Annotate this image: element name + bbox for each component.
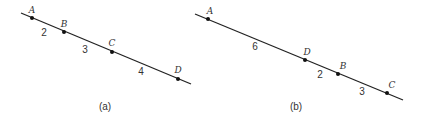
line-segment — [21, 13, 191, 84]
figure-caption: (b) — [290, 101, 302, 112]
segment-length-label: 3 — [82, 44, 88, 55]
point-label: D — [302, 47, 310, 57]
segment-length-label: 4 — [138, 66, 144, 77]
diagram-canvas: ABCD234(a) ADBC623(b) — [0, 0, 425, 125]
point-d — [176, 77, 180, 81]
segment-length-label: 2 — [317, 69, 323, 80]
point-label: A — [28, 5, 36, 15]
segment-length-label: 2 — [41, 27, 47, 38]
point-b — [62, 30, 66, 34]
point-c — [385, 91, 389, 95]
point-label: B — [60, 19, 68, 29]
point-a — [30, 16, 34, 20]
point-b — [336, 72, 340, 76]
line-segment — [195, 14, 403, 100]
point-d — [303, 58, 307, 62]
figure-caption: (a) — [99, 101, 111, 112]
point-label: C — [109, 38, 116, 48]
segment-length-label: 6 — [252, 41, 258, 52]
point-label: B — [339, 61, 347, 71]
figure-a: ABCD234(a) — [21, 5, 191, 112]
segment-length-label: 3 — [359, 86, 365, 97]
point-c — [110, 50, 114, 54]
point-a — [206, 17, 210, 21]
point-label: D — [173, 65, 181, 75]
figure-b: ADBC623(b) — [195, 6, 403, 112]
point-label: C — [389, 80, 396, 90]
point-label: A — [206, 6, 214, 16]
